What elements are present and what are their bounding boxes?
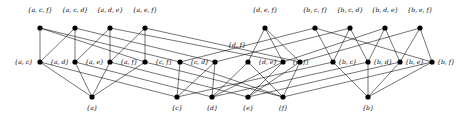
node-ac[interactable] [37, 59, 42, 64]
node-d[interactable] [209, 94, 214, 99]
node-label-ade: {a, d, e} [97, 6, 124, 13]
edge-bc-c [177, 62, 333, 97]
node-label-def: {d, e, f} [252, 6, 277, 14]
edge-cf-f [180, 62, 283, 97]
node-label-bc: {b, c} [338, 58, 357, 65]
node-a[interactable] [89, 94, 94, 99]
node-bcf[interactable] [312, 25, 317, 30]
label-layer: {a, c, f}{a, c, d}{a, d, e}{a, e, f}{d, … [14, 6, 455, 112]
edge-ad-d [75, 62, 212, 97]
node-label-a: {a} [86, 104, 98, 111]
node-def[interactable] [262, 25, 267, 30]
node-f[interactable] [280, 94, 285, 99]
node-label-acf: {a, c, f} [28, 6, 53, 14]
node-label-bd: {b, d} [373, 58, 393, 65]
node-label-de: {d, e} [258, 58, 277, 65]
node-label-be: {b, e} [405, 58, 424, 65]
node-cf[interactable] [177, 59, 182, 64]
node-label-ad: {a, d} [50, 58, 69, 65]
node-label-bde: {b, d, e} [372, 6, 399, 13]
edge-bde-de [283, 28, 385, 62]
node-label-d: {d} [206, 104, 218, 111]
node-bd[interactable] [365, 59, 370, 64]
node-be[interactable] [397, 59, 402, 64]
node-label-f: {f} [278, 104, 288, 112]
diagram-canvas: {a, c, f}{a, c, d}{a, d, e}{a, e, f}{d, … [0, 0, 456, 116]
node-df[interactable] [245, 59, 250, 64]
edge-bd-d [212, 62, 368, 97]
edge-ac-c [40, 62, 177, 97]
node-bf[interactable] [429, 59, 434, 64]
edge-ae-e [110, 62, 248, 97]
edge-be-b [368, 62, 400, 97]
node-label-ac: {a, c} [14, 58, 33, 65]
edge-bc-b [333, 62, 368, 97]
edge-ac-a [40, 62, 92, 97]
node-label-bcf: {b, c, f} [302, 6, 327, 14]
node-c[interactable] [174, 94, 179, 99]
node-label-e: {e} [242, 104, 253, 111]
edge-def-de [265, 28, 283, 62]
node-label-bef: {b, e, f} [407, 6, 432, 14]
node-b[interactable] [365, 94, 370, 99]
edge-aef-ae [110, 28, 145, 62]
node-label-acd: {a, c, d} [62, 6, 89, 13]
node-af[interactable] [142, 59, 147, 64]
hasse-diagram-figure: {a, c, f}{a, c, d}{a, d, e}{a, e, f}{d, … [0, 0, 456, 116]
node-de[interactable] [280, 59, 285, 64]
node-label-ef: {e, f} [292, 58, 310, 66]
node-bde[interactable] [382, 25, 387, 30]
node-label-bcd: {b, c, d} [337, 6, 364, 13]
edge-df-d [212, 62, 248, 97]
node-label-b: {b} [362, 104, 374, 111]
edge-acd-ac [40, 28, 75, 62]
node-label-af: {a, f} [120, 58, 138, 66]
node-label-bf: {b, f} [437, 58, 455, 66]
node-label-cf: {c, f} [155, 58, 172, 66]
edge-aef-ef [145, 28, 300, 62]
edge-af-f [145, 62, 283, 97]
edge-bf-f [283, 62, 432, 97]
node-label-aef: {a, e, f} [133, 6, 158, 14]
edge-bcd-bc [333, 28, 350, 62]
node-ade[interactable] [107, 25, 112, 30]
node-label-cd: {c, d} [190, 58, 209, 65]
node-label-df: {d, f} [228, 41, 246, 49]
node-acf[interactable] [37, 25, 42, 30]
edge-bef-bf [420, 28, 432, 62]
edge-ade-ad [75, 28, 110, 62]
edge-af-a [92, 62, 145, 97]
node-bcd[interactable] [347, 25, 352, 30]
node-bc[interactable] [330, 59, 335, 64]
node-bef[interactable] [417, 25, 422, 30]
node-ae[interactable] [107, 59, 112, 64]
edge-bcf-bf [315, 28, 432, 62]
edge-ad-a [75, 62, 92, 97]
node-label-c: {c} [171, 104, 182, 111]
edge-de-d [212, 62, 283, 97]
node-label-ae: {a, e} [85, 58, 104, 65]
node-acd[interactable] [72, 25, 77, 30]
node-aef[interactable] [142, 25, 147, 30]
edge-ade-de [110, 28, 283, 62]
node-cd[interactable] [212, 59, 217, 64]
edge-bde-be [385, 28, 400, 62]
node-ad[interactable] [72, 59, 77, 64]
edge-ef-f [283, 62, 300, 97]
node-e[interactable] [245, 94, 250, 99]
